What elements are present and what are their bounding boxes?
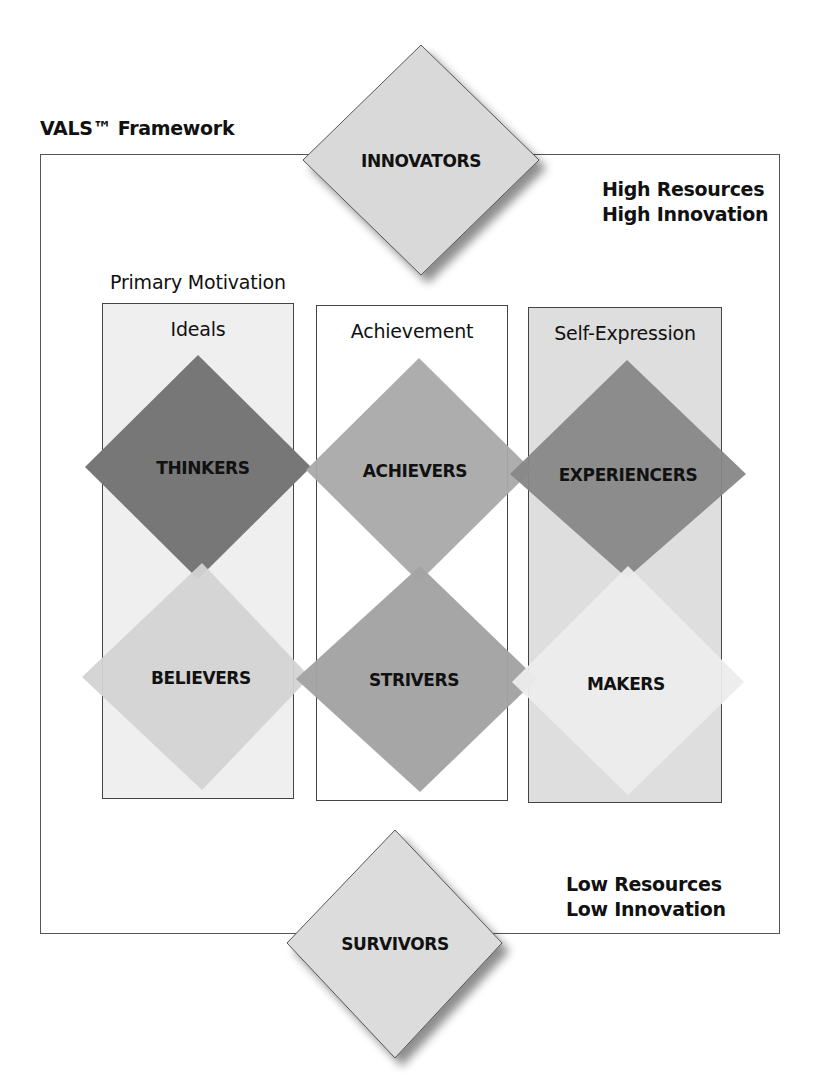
thinkers-label: THINKERS (156, 458, 249, 478)
makers-label: MAKERS (587, 674, 665, 694)
segment-survivors: SURVIVORS (287, 830, 502, 1058)
segment-strivers: STRIVERS (296, 566, 537, 792)
segment-believers: BELIEVERS (82, 563, 310, 790)
experiencers-label: EXPERIENCERS (559, 465, 698, 485)
achievers-label: ACHIEVERS (363, 461, 467, 481)
segment-innovators: INNOVATORS (303, 45, 539, 275)
segment-thinkers: THINKERS (85, 355, 311, 579)
segment-makers: MAKERS (512, 566, 744, 795)
strivers-label: STRIVERS (369, 670, 459, 690)
segment-experiencers: EXPERIENCERS (510, 360, 746, 578)
innovators-label: INNOVATORS (361, 151, 481, 171)
believers-label: BELIEVERS (151, 668, 251, 688)
segment-achievers: ACHIEVERS (306, 358, 532, 582)
survivors-label: SURVIVORS (341, 934, 449, 954)
segments-diagram: INNOVATORS THINKERS ACHIEVERS EXPERIENCE… (0, 0, 825, 1075)
